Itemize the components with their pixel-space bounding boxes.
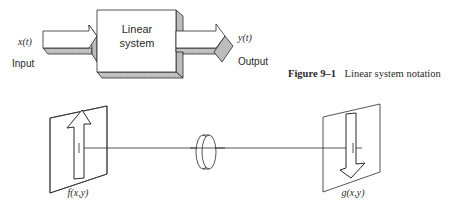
caption-number: Figure 9–1 <box>288 68 336 79</box>
input-plane <box>50 106 107 193</box>
system-label-line1: Linear <box>122 23 153 35</box>
output-signal-label: y(t) <box>237 32 253 44</box>
input-plane-label: f(x,y) <box>68 187 89 199</box>
input-signal-label: x(t) <box>17 36 33 48</box>
inverted-arrow-icon <box>340 113 365 178</box>
figure-canvas: Linear system x(t) Input y(t) Output Fig… <box>0 0 470 212</box>
optical-diagram <box>50 104 380 193</box>
output-arrow <box>176 24 233 62</box>
input-label: Input <box>12 58 34 69</box>
lens-icon <box>190 135 225 169</box>
system-label-line2: system <box>120 37 155 49</box>
output-label: Output <box>238 56 268 67</box>
output-plane-label: g(x,y) <box>341 187 365 199</box>
input-arrow <box>43 25 97 62</box>
caption-text: Linear system notation <box>345 68 442 79</box>
figure-caption: Figure 9–1 Linear system notation <box>288 68 442 79</box>
